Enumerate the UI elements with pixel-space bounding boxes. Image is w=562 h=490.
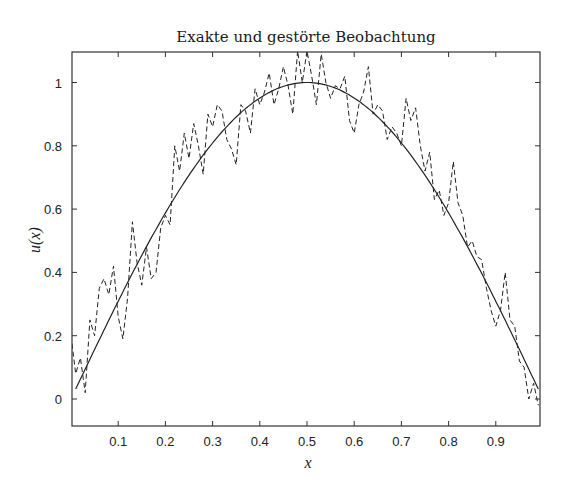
x-tick-label: 0.5: [298, 434, 316, 449]
x-tick-label: 0.6: [345, 434, 363, 449]
chart-title: Exakte und gestörte Beobachtung: [176, 28, 436, 46]
y-tick-label: 0.6: [44, 202, 62, 217]
axis-ticks: [72, 52, 540, 426]
axis-tick-labels: 0.10.20.30.40.50.60.70.80.900.20.40.60.8…: [44, 76, 505, 450]
exact-solution-line: [76, 83, 539, 390]
x-tick-label: 0.9: [487, 434, 505, 449]
y-tick-label: 0.4: [44, 265, 62, 280]
plot-frame: [72, 52, 540, 426]
y-tick-label: 0.8: [44, 139, 62, 154]
x-tick-label: 0.1: [109, 434, 127, 449]
y-tick-label: 0: [55, 392, 62, 407]
y-tick-label: 1: [55, 76, 62, 91]
noisy-observation-line: [71, 51, 538, 406]
x-tick-label: 0.4: [251, 434, 269, 449]
y-tick-label: 0.2: [44, 329, 62, 344]
y-axis-label: u(x): [26, 227, 44, 253]
x-tick-label: 0.8: [440, 434, 458, 449]
x-axis-label: x: [303, 454, 311, 471]
x-tick-label: 0.3: [204, 434, 222, 449]
chart: Exakte und gestörte Beobachtung 0.10.20.…: [0, 0, 562, 490]
x-tick-label: 0.7: [392, 434, 410, 449]
x-tick-label: 0.2: [156, 434, 174, 449]
